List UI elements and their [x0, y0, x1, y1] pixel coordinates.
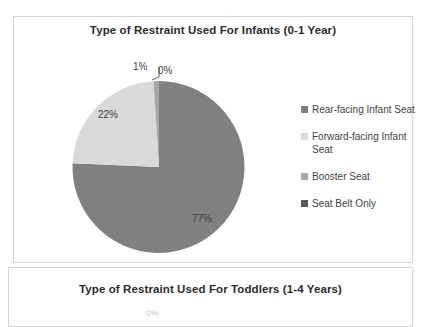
pie-data-label-seat-belt: 0% [158, 65, 172, 76]
pie-slice-forward-facing-infant-seat [73, 81, 159, 167]
pie-data-label-booster: 1% [133, 61, 147, 72]
legend-label-rear-facing: Rear-facing Infant Seat [312, 103, 415, 116]
pie-data-label-toddlers-partial: 0% [146, 308, 159, 318]
chart-legend-infants: Rear-facing Infant Seat Forward-facing I… [301, 103, 423, 210]
chart-panel-toddlers: Type of Restraint Used For Toddlers (1-4… [8, 267, 413, 327]
legend-swatch-icon-seat-belt [301, 200, 308, 207]
pie-chart-infants [60, 64, 260, 259]
chart-panel-infants: Type of Restraint Used For Infants (0-1 … [13, 16, 413, 263]
legend-label-booster: Booster Seat [312, 170, 370, 183]
chart-title-toddlers: Type of Restraint Used For Toddlers (1-4… [9, 283, 412, 295]
pie-svg [60, 64, 260, 259]
legend-swatch-icon-rear-facing [301, 106, 308, 113]
legend-item-rear-facing-infant-seat[interactable]: Rear-facing Infant Seat [301, 103, 423, 116]
legend-swatch-icon-forward-facing [301, 133, 308, 140]
legend-item-forward-facing-infant-seat[interactable]: Forward-facing Infant Seat [301, 130, 423, 156]
legend-label-forward-facing: Forward-facing Infant Seat [312, 130, 423, 156]
legend-item-seat-belt-only[interactable]: Seat Belt Only [301, 197, 423, 210]
pie-data-label-forward-facing: 22% [98, 109, 118, 120]
legend-label-seat-belt: Seat Belt Only [312, 197, 376, 210]
pie-data-label-rear-facing: 77% [192, 213, 212, 224]
legend-swatch-icon-booster [301, 173, 308, 180]
legend-item-booster-seat[interactable]: Booster Seat [301, 170, 423, 183]
chart-title-infants: Type of Restraint Used For Infants (0-1 … [14, 24, 412, 36]
